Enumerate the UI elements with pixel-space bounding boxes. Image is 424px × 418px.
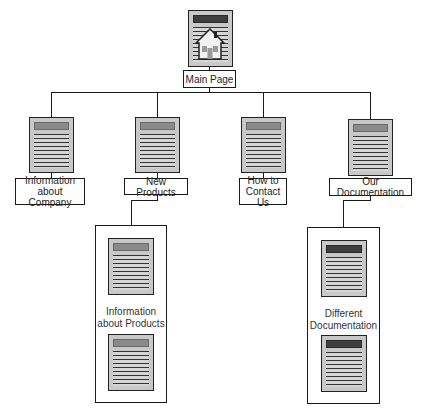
documentation-page-icon (321, 240, 367, 297)
connector (131, 200, 132, 225)
connector (51, 92, 52, 117)
company-info-document-icon (29, 117, 74, 173)
document-text-lines (113, 351, 149, 386)
contact-document-icon (241, 117, 286, 173)
connector (370, 92, 371, 119)
documentation-label: Our Documentation (329, 178, 412, 196)
new-products-label: New Products (124, 178, 188, 195)
documentation-group-container: Different Documentation (307, 227, 380, 404)
new-products-document-icon (135, 117, 180, 173)
connector (343, 200, 344, 227)
document-text-lines (140, 134, 175, 168)
home-icon (195, 28, 225, 60)
main-page-label: Main Page (183, 70, 236, 88)
document-text-lines (113, 255, 149, 290)
company-info-label: Information about Company (15, 178, 85, 205)
product-document-icon (108, 238, 154, 295)
products-group-container: Information about Products (95, 225, 167, 403)
document-text-lines (326, 257, 362, 292)
document-header-bar (113, 339, 149, 347)
connector (157, 92, 158, 117)
document-header-bar (326, 245, 362, 253)
document-text-lines (246, 134, 281, 168)
document-header-bar (113, 243, 149, 251)
connector (263, 92, 264, 117)
document-header-bar (193, 15, 228, 23)
document-header-bar (246, 122, 281, 130)
connector (343, 200, 371, 201)
main-page-document-icon (188, 10, 233, 67)
document-text-lines (326, 352, 362, 387)
documentation-document-icon (348, 119, 393, 176)
document-header-bar (326, 340, 362, 348)
connector (131, 200, 158, 201)
contact-label: How to Contact Us (239, 178, 287, 205)
documentation-group-label: Different Documentation (308, 308, 379, 332)
documentation-page-icon (321, 335, 367, 392)
document-text-lines (353, 136, 388, 171)
document-header-bar (140, 122, 175, 130)
document-text-lines (34, 134, 69, 168)
products-group-label: Information about Products (96, 306, 166, 330)
document-header-bar (353, 124, 388, 132)
document-header-bar (34, 122, 69, 130)
product-document-icon (108, 334, 154, 391)
hierarchy-bus-line (51, 92, 371, 93)
